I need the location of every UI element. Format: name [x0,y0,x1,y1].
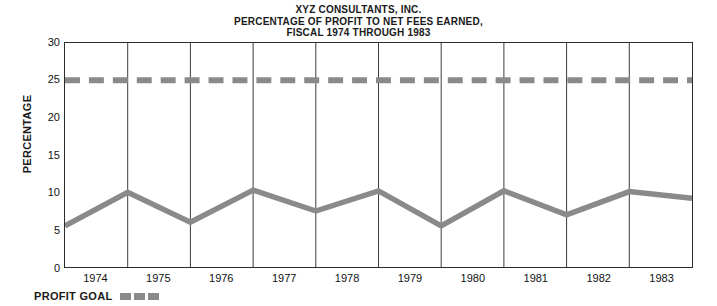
grid-lines [128,43,630,267]
plot-area [64,42,693,268]
x-axis-tick-label: 1979 [398,272,422,284]
x-axis-tick-label: 1977 [272,272,296,284]
x-axis-tick-label: 1983 [649,272,673,284]
chart-container: XYZ CONSULTANTS, INC. PERCENTAGE OF PROF… [0,0,717,306]
y-axis-tick-label: 10 [34,187,60,198]
x-axis-tick-label: 1975 [146,272,170,284]
y-axis-tick-label: 25 [34,74,60,85]
legend-swatch-profit-goal [120,293,166,300]
chart-title-line-2: PERCENTAGE OF PROFIT TO NET FEES EARNED, [0,16,717,28]
chart-svg [65,43,692,267]
x-axis-tick-labels: 1974197519761977197819791980198119821983 [64,272,693,288]
legend: PROFIT GOAL [34,290,166,302]
x-axis-tick-label: 1980 [461,272,485,284]
x-axis-tick-label: 1982 [586,272,610,284]
chart-title-line-1: XYZ CONSULTANTS, INC. [0,4,717,16]
x-axis-tick-label: 1976 [209,272,233,284]
y-axis-tick-label: 0 [34,263,60,274]
y-axis-tick-labels: 302520151050 [30,42,60,268]
y-axis-tick-label: 5 [34,225,60,236]
y-axis-tick-label: 15 [34,150,60,161]
legend-label-profit-goal: PROFIT GOAL [34,290,112,302]
x-axis-tick-label: 1981 [524,272,548,284]
chart-title-line-3: FISCAL 1974 THROUGH 1983 [0,27,717,39]
y-axis-tick-label: 30 [34,37,60,48]
chart-title: XYZ CONSULTANTS, INC. PERCENTAGE OF PROF… [0,4,717,39]
y-axis-tick-label: 20 [34,112,60,123]
x-axis-tick-label: 1974 [83,272,107,284]
x-axis-tick-label: 1978 [335,272,359,284]
